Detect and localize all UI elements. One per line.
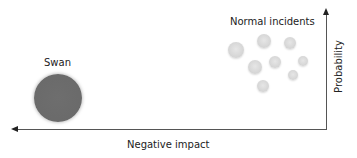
x-axis: [16, 129, 327, 130]
normal-incident-circle: [257, 80, 269, 92]
risk-diagram: Swan Normal incidents Negative impact Pr…: [0, 0, 357, 158]
normal-incident-circle: [228, 42, 244, 58]
normal-incident-circle: [269, 56, 281, 68]
arrow-up-icon: [323, 8, 329, 15]
normal-incident-circle: [257, 34, 271, 48]
normal-incident-circle: [248, 60, 262, 74]
normal-incident-circle: [298, 56, 308, 66]
y-axis: [326, 14, 327, 130]
y-axis-label: Probability: [333, 40, 344, 93]
normal-incidents-label: Normal incidents: [230, 16, 315, 27]
swan-circle: [34, 74, 82, 122]
normal-incident-circle: [288, 70, 298, 80]
arrow-left-icon: [11, 126, 18, 132]
normal-incident-circle: [284, 37, 296, 49]
swan-label: Swan: [44, 57, 71, 68]
x-axis-label: Negative impact: [127, 139, 209, 150]
